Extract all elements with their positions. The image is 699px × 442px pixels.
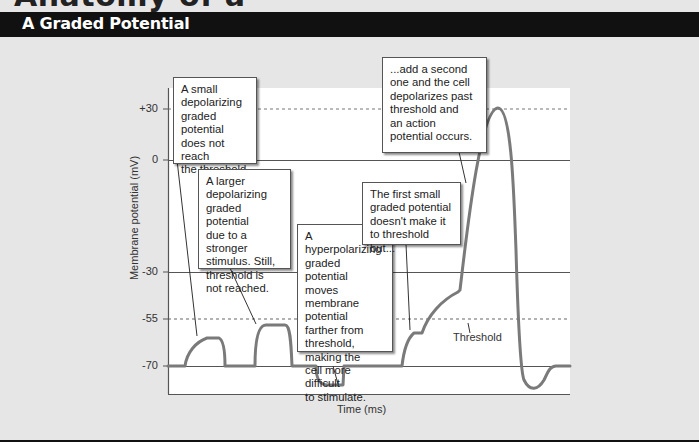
ytick-minus55: -55 <box>118 312 158 324</box>
callout-first-small-graded: The first small graded potential doesn't… <box>362 182 461 245</box>
threshold-label: Threshold <box>453 331 502 343</box>
ytick-minus70: -70 <box>118 359 158 371</box>
callout-action-potential: ...add a second one and the cell depolar… <box>382 57 487 153</box>
callout-small-depolarizing: A small depolarizing graded potential do… <box>173 77 257 164</box>
ytick-plus30: +30 <box>118 102 158 114</box>
y-axis-title: Membrane potential (mV) <box>128 148 140 288</box>
x-axis-title: Time (ms) <box>337 403 386 415</box>
y-ticks <box>163 109 168 366</box>
callout-larger-depolarizing: A larger depolarizing graded potential d… <box>198 169 291 269</box>
